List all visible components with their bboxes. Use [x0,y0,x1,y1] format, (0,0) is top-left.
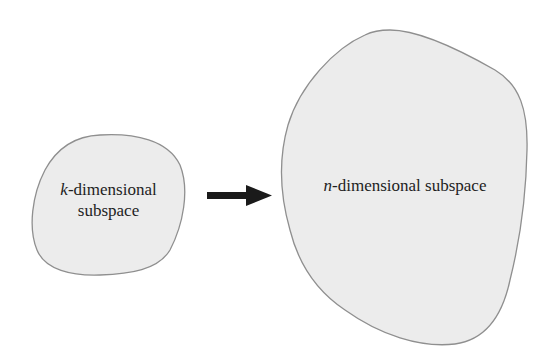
diagram-canvas: k-dimensional subspace n-dimensional sub… [0,0,553,356]
n-variable: n [324,176,333,195]
k-variable: k [60,180,68,199]
arrow-right-icon [207,185,272,206]
k-subspace-label-line1: k-dimensional [36,179,181,200]
k-subspace-label-line2: subspace [36,200,181,221]
n-subspace-label: n-dimensional subspace [285,175,525,196]
k-subspace-label: k-dimensional subspace [36,179,181,221]
